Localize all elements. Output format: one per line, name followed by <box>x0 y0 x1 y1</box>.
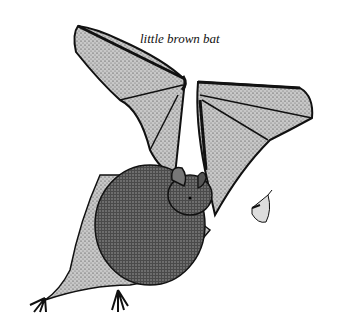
moth-icon <box>252 190 272 222</box>
bat-illustration <box>0 0 342 335</box>
left-wing <box>74 26 185 175</box>
caption-label: little brown bat <box>140 31 220 47</box>
bat-head <box>168 168 212 216</box>
bat-feet <box>30 290 128 312</box>
illustration-canvas: little brown bat <box>0 0 342 335</box>
right-wing <box>197 82 312 215</box>
